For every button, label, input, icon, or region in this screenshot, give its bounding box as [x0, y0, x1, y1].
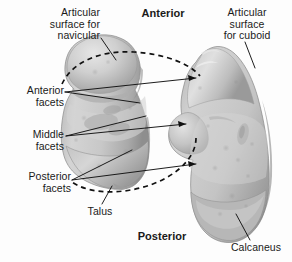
label-calcaneus: Calcaneus [222, 242, 290, 254]
label-anterior-orientation: Anterior [128, 8, 198, 20]
label-posterior-facets: Posterior facets [1, 171, 71, 194]
leader-talus [102, 186, 112, 204]
label-articular-surface-navicular: Articular surface for navicular [16, 7, 100, 42]
label-posterior-orientation: Posterior [126, 231, 198, 243]
label-talus: Talus [74, 206, 126, 218]
calcaneus-bone [169, 46, 273, 242]
label-middle-facets: Middle facets [2, 129, 64, 152]
label-articular-surface-cuboid: Articular surface for cuboid [204, 7, 290, 42]
label-anterior-facets: Anterior facets [2, 85, 64, 108]
talus-bone [61, 35, 150, 190]
anatomical-figure: Articular surface for navicular Articula… [0, 0, 292, 262]
leader-cuboid [245, 42, 255, 68]
